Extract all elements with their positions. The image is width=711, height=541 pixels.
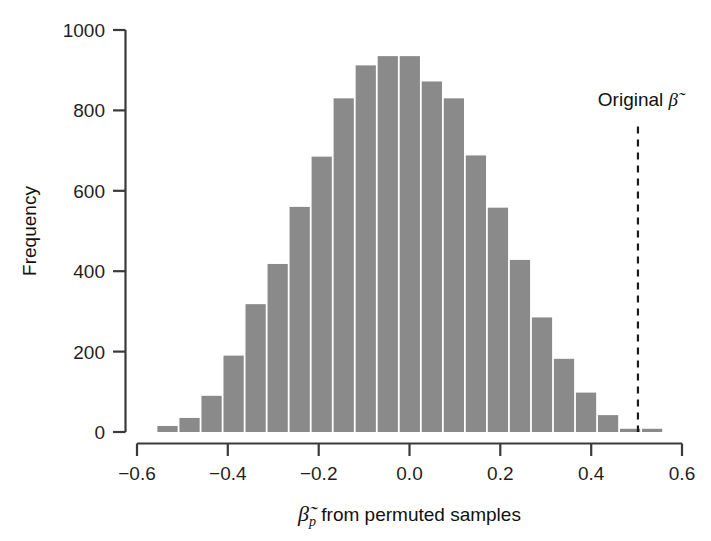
histogram-bar — [312, 157, 332, 432]
x-axis-title-rest: from permuted samples — [316, 504, 521, 525]
histogram-bars — [157, 56, 662, 432]
x-tick-label-0.0: 0.0 — [396, 463, 422, 484]
histogram-bar — [554, 359, 574, 432]
y-tick-label-0: 0 — [94, 422, 105, 443]
chart-canvas: 0 200 400 600 800 1000 Frequency Origina… — [0, 0, 711, 541]
histogram-bar — [334, 98, 354, 432]
histogram-bar — [598, 415, 618, 432]
x-tick-label--0.6: −0.6 — [118, 463, 156, 484]
y-tick-label-600: 600 — [73, 181, 105, 202]
histogram-bar — [400, 56, 420, 432]
y-tick-label-200: 200 — [73, 342, 105, 363]
histogram-bar — [268, 264, 288, 432]
histogram-bar — [444, 98, 464, 432]
histogram-bar — [201, 396, 221, 432]
original-beta-label: Original β̃ — [598, 89, 686, 110]
x-axis-title: β̃p from permuted samples — [297, 501, 521, 529]
original-beta-label-text: Original — [598, 89, 663, 110]
x-tick-label--0.4: −0.4 — [209, 463, 247, 484]
histogram-bar — [576, 393, 596, 432]
y-tick-label-1000: 1000 — [63, 20, 105, 41]
y-tick-label-400: 400 — [73, 261, 105, 282]
histogram-bar — [356, 65, 376, 432]
y-axis: 0 200 400 600 800 1000 Frequency — [19, 20, 126, 443]
histogram-bar — [532, 317, 552, 432]
annotation-layer: Original β̃ — [598, 89, 686, 432]
x-axis: −0.6 −0.4 −0.2 0.0 0.2 0.4 0.6 β̃p from … — [118, 444, 695, 530]
x-tick-label--0.2: −0.2 — [300, 463, 338, 484]
x-tick-label-0.6: 0.6 — [669, 463, 695, 484]
histogram-bar — [290, 207, 310, 432]
y-tick-label-800: 800 — [73, 100, 105, 121]
histogram-bar — [378, 56, 398, 432]
histogram-bar — [510, 260, 530, 432]
histogram-bar — [157, 426, 177, 432]
histogram-bar — [488, 208, 508, 432]
histogram-bar — [466, 155, 486, 432]
histogram-bar — [179, 418, 199, 432]
histogram-bar — [642, 429, 662, 432]
x-tick-label-0.2: 0.2 — [487, 463, 513, 484]
histogram-bar — [246, 304, 266, 432]
y-axis-title: Frequency — [19, 186, 40, 276]
histogram-bar — [223, 356, 243, 432]
histogram-figure: 0 200 400 600 800 1000 Frequency Origina… — [0, 0, 711, 541]
histogram-bar — [422, 81, 442, 432]
x-tick-label-0.4: 0.4 — [578, 463, 605, 484]
